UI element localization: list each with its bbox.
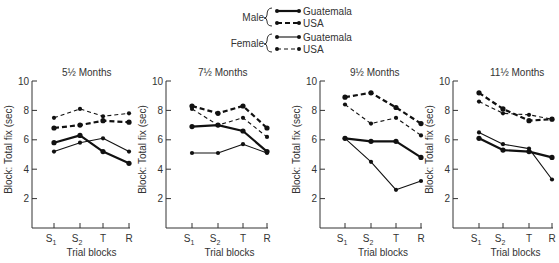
data-point [216, 123, 220, 127]
y-tick-label: 8 [311, 105, 317, 116]
y-tick-label: 8 [444, 105, 450, 116]
figure: MaleGuatemalaUSAFemaleGuatemalaUSA 5½ Mo… [0, 0, 559, 263]
legend-entry-label: Guatemala [303, 6, 352, 17]
x-tick-label: T [100, 233, 106, 244]
x-tick-label: S1 [184, 233, 195, 246]
data-point [419, 179, 423, 183]
data-point [52, 150, 56, 154]
series-line-female_guatemala [479, 132, 552, 179]
x-tick-label: S2 [210, 233, 221, 246]
panel-title: 7½ Months [198, 67, 247, 78]
panel-3: 9½ Months246810S1S2TRTrial blocksBlock: … [291, 67, 425, 258]
data-point [550, 117, 554, 121]
x-tick-label: R [417, 233, 424, 244]
data-point [77, 123, 82, 128]
data-point [368, 139, 373, 144]
data-point [501, 111, 505, 115]
panel-title: 5½ Months [62, 67, 111, 78]
panel-title: 11½ Months [490, 67, 544, 78]
legend-group-label: Female [231, 38, 265, 49]
x-tick-label: S1 [46, 233, 57, 246]
panel-1: 5½ Months246810S1S2TRTrial blocksBlock: … [3, 67, 133, 258]
y-tick-label: 2 [157, 193, 163, 204]
data-point [126, 161, 131, 166]
y-tick-label: 10 [152, 76, 164, 87]
data-point [343, 102, 347, 106]
data-point [369, 160, 373, 164]
y-axis-title: Block: Total fix (sec) [291, 105, 302, 194]
data-point [419, 133, 423, 137]
series-line-male_guatemala [345, 138, 421, 157]
x-tick-label: T [526, 233, 532, 244]
x-tick-label: S2 [363, 233, 374, 246]
data-point [501, 142, 505, 146]
y-tick-label: 4 [157, 164, 163, 175]
panels: 5½ Months246810S1S2TRTrial blocksBlock: … [3, 67, 556, 258]
data-point [393, 105, 398, 110]
x-axis-title: Trial blocks [358, 247, 408, 258]
data-point [51, 140, 56, 145]
data-point [418, 155, 423, 160]
data-point [527, 113, 531, 117]
series-line-male_usa [345, 93, 421, 124]
data-point [500, 106, 505, 111]
y-axis-title: Block: Total fix (sec) [424, 105, 435, 194]
data-point [369, 122, 373, 126]
legend-group-label: Male [242, 12, 264, 23]
legend-entry-label: USA [303, 18, 324, 29]
y-tick-label: 10 [306, 76, 318, 87]
data-point [241, 142, 245, 146]
x-tick-label: R [263, 233, 270, 244]
data-point [476, 90, 481, 95]
x-axis-title: Trial blocks [204, 247, 254, 258]
data-point [527, 147, 531, 151]
data-point [101, 114, 105, 118]
series-line-female_usa [479, 102, 552, 120]
y-tick-label: 10 [18, 76, 30, 87]
data-point [215, 111, 220, 116]
data-point [394, 116, 398, 120]
data-point [477, 130, 481, 134]
legend-entry-label: USA [303, 44, 324, 55]
series-line-female_usa [54, 109, 129, 118]
y-tick-label: 6 [157, 134, 163, 145]
data-point [418, 121, 423, 126]
data-point [78, 107, 82, 111]
brace-icon [264, 34, 272, 52]
y-tick-label: 8 [157, 105, 163, 116]
x-tick-label: S2 [72, 233, 83, 246]
y-tick-label: 2 [444, 193, 450, 204]
data-point [343, 136, 347, 140]
data-point [190, 107, 194, 111]
panel-title: 9½ Months [350, 67, 399, 78]
data-point [549, 155, 554, 160]
data-point [476, 136, 481, 141]
data-point [240, 128, 245, 133]
data-point [500, 148, 505, 153]
data-point [190, 151, 194, 155]
data-point [51, 125, 56, 130]
data-point [265, 151, 269, 155]
legend: MaleGuatemalaUSAFemaleGuatemalaUSA [231, 6, 353, 55]
series-line-male_usa [192, 106, 267, 128]
y-tick-label: 4 [23, 164, 29, 175]
data-point [100, 149, 105, 154]
data-point [241, 116, 245, 120]
data-point [264, 125, 269, 130]
y-axis-title: Block: Total fix (sec) [3, 105, 14, 194]
series-line-female_guatemala [345, 138, 421, 190]
y-tick-label: 6 [23, 134, 29, 145]
data-point [477, 100, 481, 104]
y-tick-label: 4 [444, 164, 450, 175]
series-line-male_usa [54, 121, 129, 128]
x-tick-label: R [125, 233, 132, 244]
y-tick-label: 8 [23, 105, 29, 116]
series-line-female_usa [345, 105, 421, 136]
data-point [78, 141, 82, 145]
brace-icon [264, 8, 272, 26]
x-tick-label: R [548, 233, 555, 244]
data-point [77, 133, 82, 138]
x-tick-label: S1 [471, 233, 482, 246]
panel-4: 11½ Months246810S1S2TRTrial blocksBlock:… [424, 67, 556, 258]
series-line-male_guatemala [54, 135, 129, 163]
